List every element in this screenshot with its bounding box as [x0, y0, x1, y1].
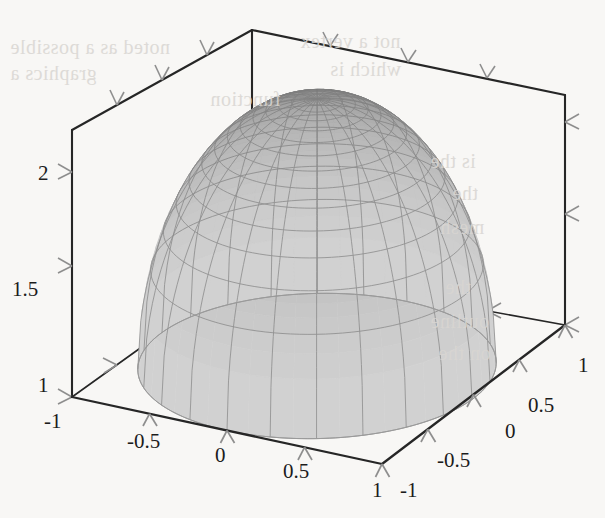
- y-tick-tick-label: 1: [578, 353, 589, 377]
- y-tick-tick-label: -0.5: [437, 448, 470, 472]
- x-tick-tick-label: 0: [215, 443, 226, 467]
- surface-plot-figure: -1-0.500.51-1-0.500.5121.51 noted as a p…: [0, 0, 605, 518]
- x-tick-tick-label: -1: [44, 409, 62, 433]
- x-tick-tick-label: -0.5: [127, 429, 160, 453]
- y-tick-tick-label: 0.5: [528, 393, 554, 417]
- y-tick-tick-label: 0: [505, 419, 516, 443]
- x-tick-tick-label: 1: [372, 478, 383, 502]
- plot-canvas: -1-0.500.51-1-0.500.5121.51: [0, 0, 605, 518]
- x-tick-tick-label: 0.5: [283, 459, 309, 483]
- y-tick-tick-label: -1: [400, 478, 418, 502]
- z-tick-tick-label: 1.5: [12, 277, 38, 301]
- z-tick-tick-label: 1: [38, 373, 49, 397]
- z-tick-tick-label: 2: [38, 161, 49, 185]
